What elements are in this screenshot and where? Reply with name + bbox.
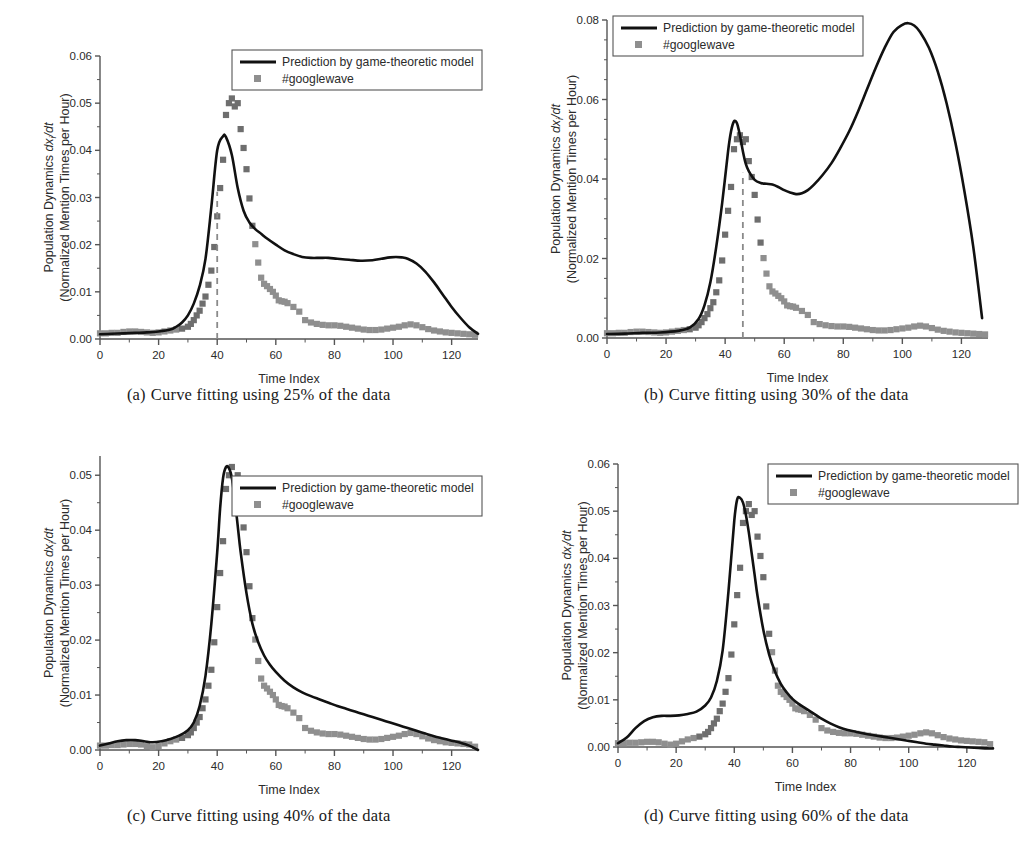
y-tick-label: 0.02 <box>70 239 92 251</box>
y-tick-label: 0.02 <box>70 634 92 646</box>
chart-b: 0.000.020.040.060.08020406080100120Time … <box>518 0 1035 385</box>
x-tick-label: 80 <box>328 349 341 361</box>
y-tick-label: 0.06 <box>587 458 609 470</box>
x-tick-label: 100 <box>383 760 402 772</box>
x-tick-label: 100 <box>899 757 918 769</box>
y-axis-title-line1: Population Dynamics dxi/dt <box>42 527 58 678</box>
y-tick-label: 0.03 <box>70 579 92 591</box>
legend-label-model: Prediction by game-theoretic model <box>282 481 474 495</box>
legend-label-model: Prediction by game-theoretic model <box>818 469 1010 483</box>
x-axis-title: Time Index <box>774 780 836 794</box>
y-tick-label: 0.05 <box>70 469 92 481</box>
x-tick-label: 40 <box>718 348 731 360</box>
caption-d-text: Curve fitting using 60% of the data <box>669 806 909 825</box>
legend-label-model: Prediction by game-theoretic model <box>663 21 855 35</box>
y-tick-label: 0.04 <box>587 552 610 564</box>
y-axis-title-line2: (Normalized Mention Times per Hour) <box>58 93 72 301</box>
y-tick-label: 0.00 <box>70 333 92 345</box>
y-tick-label: 0.06 <box>70 50 92 62</box>
y-tick-label: 0.00 <box>70 744 92 756</box>
caption-d: (d)Curve fitting using 60% of the data <box>518 806 1035 826</box>
panel-a: 0.000.010.020.030.040.050.06020406080100… <box>0 0 518 434</box>
y-axis-title-line1: Population Dynamics dxi/dt <box>549 103 565 254</box>
chart-c: 0.000.010.020.030.040.05020406080100120T… <box>0 434 518 861</box>
series-googlewave-markers <box>603 132 987 337</box>
figure-panel-grid: 0.000.010.020.030.040.050.06020406080100… <box>0 0 1035 867</box>
chart-a: 0.000.010.020.030.040.050.06020406080100… <box>0 0 518 385</box>
x-tick-label: 0 <box>97 349 103 361</box>
x-tick-label: 40 <box>211 349 224 361</box>
y-tick-label: 0.01 <box>587 693 609 705</box>
y-tick-label: 0.02 <box>587 646 609 658</box>
x-tick-label: 20 <box>152 349 165 361</box>
caption-c-text: Curve fitting using 40% of the data <box>151 806 391 825</box>
caption-b-index: (b) <box>644 385 664 404</box>
x-tick-label: 80 <box>836 348 849 360</box>
y-tick-label: 0.01 <box>70 689 92 701</box>
caption-b-text: Curve fitting using 30% of the data <box>669 385 909 404</box>
x-tick-label: 40 <box>727 757 740 769</box>
x-tick-label: 100 <box>892 348 911 360</box>
y-tick-label: 0.04 <box>70 524 93 536</box>
legend-label-googlewave: #googlewave <box>818 486 890 500</box>
x-tick-label: 120 <box>442 349 461 361</box>
x-tick-label: 60 <box>786 757 799 769</box>
legend-marker-swatch <box>254 75 261 82</box>
legend-marker-swatch <box>635 41 642 48</box>
caption-c: (c)Curve fitting using 40% of the data <box>0 806 518 826</box>
y-tick-label: 0.03 <box>70 192 92 204</box>
x-axis-title: Time Index <box>258 372 320 385</box>
y-tick-label: 0.05 <box>70 97 92 109</box>
x-tick-label: 80 <box>328 760 341 772</box>
x-tick-label: 120 <box>951 348 970 360</box>
x-axis-title: Time Index <box>258 783 320 797</box>
caption-a-index: (a) <box>127 385 146 404</box>
caption-a-text: Curve fitting using 25% of the data <box>151 385 391 404</box>
panel-c: 0.000.010.020.030.040.05020406080100120T… <box>0 434 518 867</box>
caption-b: (b)Curve fitting using 30% of the data <box>518 385 1035 405</box>
x-tick-label: 60 <box>269 760 282 772</box>
panel-b: 0.000.020.040.060.08020406080100120Time … <box>518 0 1035 434</box>
y-tick-label: 0.00 <box>576 332 598 344</box>
y-tick-label: 0.05 <box>587 505 609 517</box>
y-axis-title-line1: Population Dynamics dxi/dt <box>560 529 576 680</box>
x-tick-label: 0 <box>603 348 609 360</box>
y-tick-label: 0.00 <box>587 741 609 753</box>
x-tick-label: 60 <box>269 349 282 361</box>
x-tick-label: 20 <box>669 757 682 769</box>
x-tick-label: 120 <box>957 757 976 769</box>
y-axis-title-line2: (Normalized Mention Times per Hour) <box>576 501 590 709</box>
legend-label-googlewave: #googlewave <box>663 38 735 52</box>
x-tick-label: 100 <box>383 349 402 361</box>
y-tick-label: 0.06 <box>576 94 598 106</box>
x-tick-label: 60 <box>777 348 790 360</box>
series-model-prediction-line <box>607 23 982 334</box>
legend-marker-swatch <box>790 489 797 496</box>
x-tick-label: 20 <box>152 760 165 772</box>
x-tick-label: 120 <box>442 760 461 772</box>
y-tick-label: 0.03 <box>587 599 609 611</box>
x-tick-label: 0 <box>97 760 103 772</box>
legend-label-googlewave: #googlewave <box>282 498 354 512</box>
caption-a: (a)Curve fitting using 25% of the data <box>0 385 518 405</box>
caption-c-index: (c) <box>127 806 146 825</box>
series-googlewave-markers <box>614 500 992 747</box>
x-tick-label: 40 <box>211 760 224 772</box>
y-tick-label: 0.08 <box>576 14 598 26</box>
y-axis-title-line1: Population Dynamics dxi/dt <box>42 122 58 273</box>
x-tick-label: 80 <box>844 757 857 769</box>
panel-d: 0.000.010.020.030.040.050.06020406080100… <box>518 434 1035 867</box>
x-tick-label: 20 <box>659 348 672 360</box>
y-axis-title-line2: (Normalized Mention Times per Hour) <box>58 498 72 706</box>
y-tick-label: 0.04 <box>576 173 599 185</box>
legend-marker-swatch <box>254 501 261 508</box>
chart-d: 0.000.010.020.030.040.050.06020406080100… <box>518 434 1035 861</box>
x-axis-title: Time Index <box>766 371 828 385</box>
series-googlewave-markers <box>97 95 478 338</box>
y-tick-label: 0.01 <box>70 286 92 298</box>
y-axis-title-line2: (Normalized Mention Times per Hour) <box>565 75 579 283</box>
legend-label-googlewave: #googlewave <box>282 72 354 86</box>
y-tick-label: 0.04 <box>70 144 93 156</box>
y-tick-label: 0.02 <box>576 253 598 265</box>
legend-label-model: Prediction by game-theoretic model <box>282 55 474 69</box>
